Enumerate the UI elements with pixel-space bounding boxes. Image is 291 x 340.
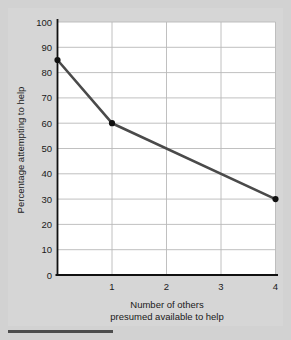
y-tick-label-40: 40 <box>41 168 52 179</box>
y-tick-label-0: 0 <box>47 270 52 281</box>
data-point-2[interactable] <box>272 196 278 202</box>
y-tick-label-60: 60 <box>41 118 52 129</box>
y-axis-tick-labels: 100 90 80 70 60 50 40 30 20 10 0 <box>36 17 52 281</box>
y-axis-title: Percentage attempting to help <box>15 87 26 214</box>
x-tick-label-2: 2 <box>164 281 169 292</box>
y-tick-label-90: 90 <box>41 42 52 53</box>
bottom-rule-divider <box>8 330 113 333</box>
x-axis-tick-labels: 1 2 3 4 <box>109 281 278 292</box>
y-tick-label-30: 30 <box>41 194 52 205</box>
y-tick-label-70: 70 <box>41 92 52 103</box>
y-tick-label-20: 20 <box>41 219 52 230</box>
x-tick-label-3: 3 <box>218 281 223 292</box>
y-tick-label-100: 100 <box>36 17 52 28</box>
y-tick-label-10: 10 <box>41 244 52 255</box>
data-point-0[interactable] <box>54 57 60 63</box>
y-tick-label-80: 80 <box>41 67 52 78</box>
data-point-1[interactable] <box>109 120 115 126</box>
x-axis-title-line-1: Number of others <box>130 299 204 310</box>
x-tick-label-1: 1 <box>109 281 114 292</box>
x-tick-label-4: 4 <box>273 281 278 292</box>
line-chart: 100 90 80 70 60 50 40 30 20 10 0 1 2 3 4… <box>0 0 291 340</box>
y-tick-label-50: 50 <box>41 143 52 154</box>
figure-container: 100 90 80 70 60 50 40 30 20 10 0 1 2 3 4… <box>0 0 291 340</box>
x-axis-title-line-2: presumed available to help <box>110 311 224 322</box>
